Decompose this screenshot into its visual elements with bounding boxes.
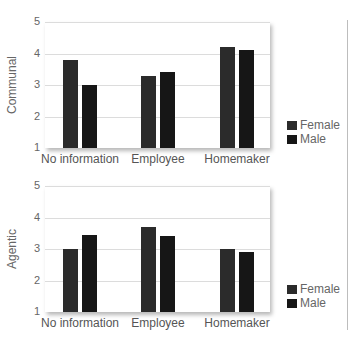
legend-swatch bbox=[287, 299, 297, 308]
legend-item-female: Female bbox=[287, 118, 340, 132]
gridline bbox=[45, 117, 270, 118]
bar-male bbox=[82, 235, 97, 312]
y-tick-label: 1 bbox=[20, 141, 40, 153]
gridline bbox=[45, 186, 270, 187]
y-tick-label: 5 bbox=[20, 179, 40, 191]
legend-swatch bbox=[287, 121, 297, 130]
legend-label: Female bbox=[300, 118, 340, 132]
y-tick-label: 1 bbox=[20, 305, 40, 317]
bar-male bbox=[239, 252, 254, 312]
bar-male bbox=[160, 236, 175, 312]
y-tick-label: 3 bbox=[20, 78, 40, 90]
legend-item-male: Male bbox=[287, 132, 340, 146]
bar-female bbox=[141, 76, 156, 148]
legend: FemaleMale bbox=[287, 282, 340, 310]
x-tick-label: Homemaker bbox=[204, 316, 269, 330]
legend-swatch bbox=[287, 135, 297, 144]
bar-female bbox=[63, 60, 78, 148]
plot-area bbox=[45, 22, 270, 148]
gridline bbox=[45, 54, 270, 55]
legend-item-female: Female bbox=[287, 282, 340, 296]
y-axis-label: Communal bbox=[5, 45, 19, 125]
y-tick-label: 2 bbox=[20, 274, 40, 286]
legend-swatch bbox=[287, 285, 297, 294]
legend-label: Male bbox=[300, 296, 326, 310]
y-tick-label: 2 bbox=[20, 110, 40, 122]
bar-male bbox=[239, 50, 254, 148]
legend-label: Male bbox=[300, 132, 326, 146]
bar-female bbox=[220, 249, 235, 312]
communal-chart: 12345No informationEmployeeHomemakerComm… bbox=[0, 0, 340, 170]
legend-item-male: Male bbox=[287, 296, 340, 310]
bar-female bbox=[220, 47, 235, 148]
bar-female bbox=[141, 227, 156, 312]
y-tick-label: 3 bbox=[20, 242, 40, 254]
x-tick-label: Employee bbox=[131, 316, 184, 330]
plot-area bbox=[45, 186, 270, 312]
y-tick-label: 4 bbox=[20, 211, 40, 223]
divider-line bbox=[347, 20, 348, 330]
x-tick-label: No information bbox=[41, 316, 119, 330]
gridline bbox=[45, 281, 270, 282]
bar-male bbox=[160, 72, 175, 148]
gridline bbox=[45, 249, 270, 250]
bar-female bbox=[63, 249, 78, 312]
y-tick-label: 4 bbox=[20, 47, 40, 59]
bar-male bbox=[82, 85, 97, 148]
agentic-chart: 12345No informationEmployeeHomemakerAgen… bbox=[0, 164, 340, 334]
legend-label: Female bbox=[300, 282, 340, 296]
y-tick-label: 5 bbox=[20, 15, 40, 27]
y-axis-label: Agentic bbox=[5, 209, 19, 289]
gridline bbox=[45, 218, 270, 219]
gridline bbox=[45, 85, 270, 86]
legend: FemaleMale bbox=[287, 118, 340, 146]
gridline bbox=[45, 22, 270, 23]
